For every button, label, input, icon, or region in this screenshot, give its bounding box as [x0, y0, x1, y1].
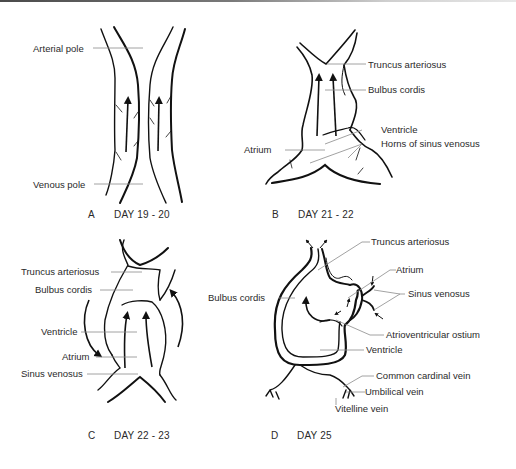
label-d-atrium: Atrium: [396, 264, 423, 275]
panel-b-drawing: [266, 30, 392, 184]
label-c-ventricle: Ventricle: [41, 326, 77, 337]
panel-b-flow-arrows: [317, 77, 336, 136]
blood-flow-arrow-icon: [84, 300, 99, 355]
label-b-bulbus-cordis: Bulbus cordis: [368, 84, 425, 95]
label-c-atrium: Atrium: [62, 351, 89, 362]
blood-flow-arrow-icon: [306, 300, 330, 321]
caption-panel-c: CDAY 22 - 23: [88, 430, 170, 442]
blood-flow-arrow-icon: [333, 77, 336, 136]
panel-d-days: DAY 25: [297, 430, 332, 441]
label-b-atrium: Atrium: [244, 144, 271, 155]
label-d-sinus-venosus: Sinus venosus: [408, 288, 470, 299]
blood-flow-arrow-icon: [347, 300, 349, 307]
blood-flow-arrow-icon: [125, 315, 127, 368]
panel-c-drawing: [98, 240, 176, 402]
label-d-vitelline-vein: Vitelline vein: [335, 403, 388, 414]
blood-flow-arrow-icon: [146, 315, 152, 367]
blood-flow-arrow-icon: [158, 100, 159, 151]
panel-letter-d: D: [271, 430, 297, 442]
panel-letter-c: C: [88, 430, 114, 442]
panel-d-drawing: [266, 248, 374, 399]
label-d-bulbus-cordis: Bulbus cordis: [208, 292, 265, 303]
panel-a-flow-arrows: [126, 100, 159, 152]
label-venous-pole: Venous pole: [33, 179, 85, 190]
label-d-truncus-arteriosus: Truncus arteriosus: [371, 236, 449, 247]
label-arterial-pole: Arterial pole: [33, 43, 84, 54]
label-b-ventricle: Ventricle: [381, 124, 417, 135]
label-c-sinus-venosus: Sinus venosus: [21, 368, 83, 379]
label-c-bulbus-cordis: Bulbus cordis: [35, 284, 92, 295]
label-d-common-cardinal-vein: Common cardinal vein: [376, 370, 471, 381]
panel-a-drawing: [101, 27, 185, 203]
label-b-horns-sinus-venosus: Horns of sinus venosus: [381, 138, 480, 149]
label-b-truncus-arteriosus: Truncus arteriosus: [368, 59, 446, 70]
blood-flow-arrow-icon: [372, 276, 373, 284]
panel-letter-b: B: [272, 209, 298, 221]
label-d-atrioventricular-ostium: Atrioventricular ostium: [386, 329, 480, 340]
blood-flow-arrow-icon: [376, 314, 383, 319]
caption-panel-a: ADAY 19 - 20: [88, 209, 170, 221]
caption-panel-b: BDAY 21 - 22: [272, 209, 354, 221]
blood-flow-arrow-icon: [172, 292, 183, 347]
caption-panel-d: DDAY 25: [271, 430, 332, 442]
blood-flow-arrow-icon: [317, 77, 319, 136]
blood-flow-arrow-icon: [320, 241, 326, 248]
blood-flow-arrow-icon: [126, 100, 128, 152]
panel-b-days: DAY 21 - 22: [298, 209, 354, 220]
blood-flow-arrow-icon: [307, 241, 313, 248]
heart-development-diagram: [0, 0, 516, 469]
label-d-umbilical-vein: Umbilical vein: [365, 386, 424, 397]
panel-c-days: DAY 22 - 23: [114, 430, 170, 441]
panel-b-leaders: [285, 64, 366, 163]
panel-a-days: DAY 19 - 20: [114, 209, 170, 220]
blood-flow-arrow-icon: [336, 311, 341, 314]
panel-letter-a: A: [88, 209, 114, 221]
label-c-truncus-arteriosus: Truncus arteriosus: [21, 266, 99, 277]
label-d-ventricle: Ventricle: [366, 344, 402, 355]
